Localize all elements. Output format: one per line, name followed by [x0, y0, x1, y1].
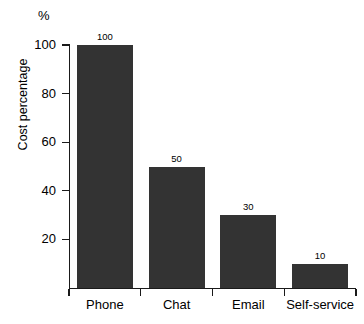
y-axis-tick-label: 20 [22, 232, 56, 245]
y-axis-tick [62, 239, 69, 240]
x-axis-tick [355, 289, 356, 296]
y-axis-tick [62, 44, 69, 45]
bar[interactable] [292, 264, 348, 288]
y-axis-tick-label: 60 [22, 135, 56, 148]
x-axis-tick [68, 289, 69, 296]
x-axis-tick [140, 289, 141, 296]
x-axis-category-label: Self-service [270, 298, 364, 312]
y-axis-tick [62, 93, 69, 94]
y-axis-tick-label: 100 [22, 38, 56, 51]
y-axis-line [69, 44, 70, 289]
y-axis-tick-label: 40 [22, 184, 56, 197]
bar[interactable] [77, 45, 133, 288]
x-axis-tick [284, 289, 285, 296]
bar[interactable] [220, 215, 276, 288]
y-axis-tick-label: 80 [22, 87, 56, 100]
bar-value-label: 30 [218, 202, 278, 212]
bar-value-label: 50 [147, 154, 207, 164]
bar-value-label: 100 [75, 32, 135, 42]
bar-chart: % Cost percentage 20406080100 100Phone50… [0, 0, 364, 324]
bar[interactable] [149, 167, 205, 289]
y-axis-tick [62, 190, 69, 191]
bar-value-label: 10 [290, 251, 350, 261]
y-axis-unit-label: % [38, 9, 50, 22]
y-axis-tick [62, 142, 69, 143]
x-axis-tick [212, 289, 213, 296]
